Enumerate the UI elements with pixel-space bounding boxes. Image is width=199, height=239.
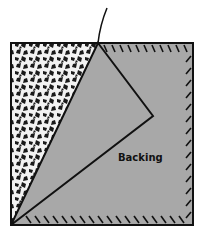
backing-label: Backing [118, 152, 163, 163]
diagram-canvas [0, 0, 199, 239]
pull-tab-line [98, 8, 107, 43]
